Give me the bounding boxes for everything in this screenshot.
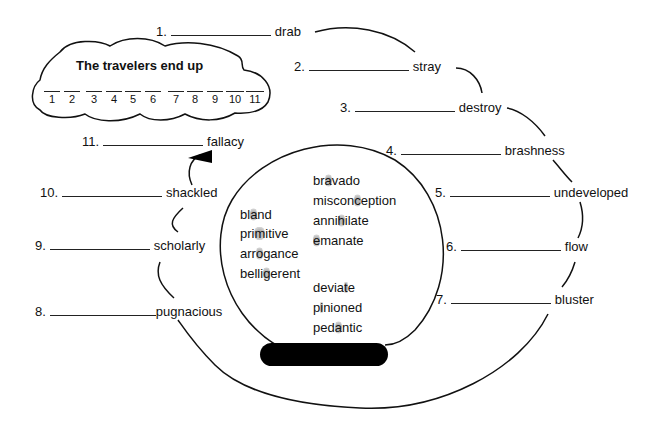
word-bank-item: bravado <box>313 173 360 189</box>
answer-blank[interactable] <box>401 142 501 155</box>
clue-8: 8.pugnacious <box>35 303 222 320</box>
clue-7: 7.bluster <box>436 291 594 308</box>
clue-5: 5.undeveloped <box>435 184 628 201</box>
highlighted-letter: m <box>254 226 265 241</box>
answer-blank[interactable] <box>50 303 156 316</box>
clue-3: 3.destroy <box>340 99 501 116</box>
answer-blank[interactable] <box>103 133 203 146</box>
answer-slot[interactable]: 10 <box>226 91 244 105</box>
answer-blank[interactable] <box>355 99 455 112</box>
word-bank-item: misconception <box>313 193 396 209</box>
cloud-outline <box>32 39 270 121</box>
answer-blank[interactable] <box>62 184 162 197</box>
clue-1: 1.drab <box>156 23 301 40</box>
answer-slot[interactable]: 9 <box>207 91 223 105</box>
word-bank-item: bland <box>240 207 272 223</box>
answer-blank[interactable] <box>461 238 561 251</box>
answer-slot[interactable]: 1 <box>44 91 60 105</box>
answer-blank[interactable] <box>171 23 271 36</box>
crystal-ball-base <box>260 343 388 366</box>
word-bank-item: belligerent <box>240 266 300 282</box>
answer-slot[interactable]: 11 <box>246 91 264 105</box>
answer-blank[interactable] <box>309 58 409 71</box>
answer-slot[interactable]: 2 <box>64 91 80 105</box>
highlighted-letter: h <box>338 213 345 228</box>
clue-11: 11.fallacy <box>82 133 244 150</box>
cloud-title: The travelers end up <box>76 58 203 73</box>
word-bank-item: pedantic <box>313 320 362 336</box>
answer-blank[interactable] <box>50 237 150 250</box>
word-bank-item: pinioned <box>313 300 362 316</box>
clue-10: 10.shackled <box>40 184 217 201</box>
answer-slot[interactable]: 5 <box>125 91 141 105</box>
clue-9: 9.scholarly <box>35 237 205 254</box>
word-bank-item: annihilate <box>313 213 369 229</box>
word-bank-item: deviate <box>313 280 355 296</box>
answer-blank[interactable] <box>451 291 551 304</box>
answer-blank[interactable] <box>450 184 550 197</box>
word-bank-item: primitive <box>240 226 288 242</box>
word-bank-item: arrogance <box>240 246 299 262</box>
arrow-head-icon <box>188 150 212 163</box>
answer-slot[interactable]: 3 <box>86 91 102 105</box>
answer-slot[interactable]: 7 <box>168 91 184 105</box>
word-bank-item: emanate <box>313 233 364 249</box>
clue-2: 2.stray <box>294 58 441 75</box>
answer-slot[interactable]: 6 <box>145 91 161 105</box>
clue-4: 4.brashness <box>386 142 565 159</box>
answer-slot[interactable]: 4 <box>106 91 122 105</box>
clue-6: 6.flow <box>446 238 588 255</box>
highlighted-letter: a <box>335 320 342 335</box>
highlighted-letter: a <box>325 173 332 188</box>
answer-slot[interactable]: 8 <box>187 91 203 105</box>
